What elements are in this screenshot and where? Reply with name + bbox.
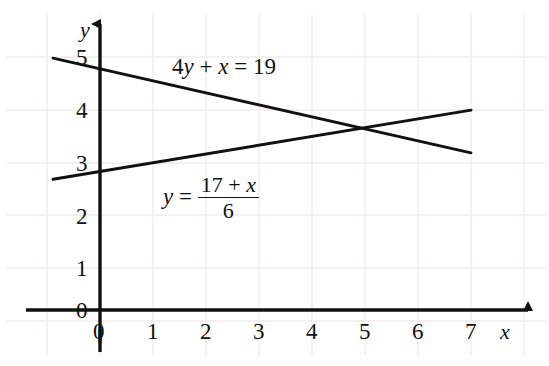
y-tick-label-4: 4 bbox=[76, 99, 88, 122]
equation-line2-lhs: y bbox=[163, 184, 173, 209]
equation-line1-var-y: y bbox=[184, 54, 194, 79]
fraction: 17 + x 6 bbox=[198, 173, 259, 222]
fraction-numerator: 17 + x bbox=[198, 173, 259, 198]
equation-label-line1: 4y + x = 19 bbox=[172, 55, 276, 78]
equation-label-line2: y = 17 + x 6 bbox=[163, 174, 259, 223]
graph-figure: y x 5 4 3 2 1 0 0 1 2 3 4 5 6 7 4y + x =… bbox=[0, 0, 549, 366]
x-tick-label-3: 3 bbox=[253, 320, 265, 343]
x-tick-label-2: 2 bbox=[200, 320, 212, 343]
x-tick-label-5: 5 bbox=[359, 320, 371, 343]
y-tick-label-1: 1 bbox=[76, 257, 88, 280]
y-tick-label-5: 5 bbox=[76, 46, 88, 69]
fraction-denominator: 6 bbox=[198, 198, 259, 222]
equation-line2-equals: = bbox=[179, 184, 192, 209]
equation-line1-plus: + bbox=[194, 54, 218, 79]
equation-line1-rhs: = 19 bbox=[228, 54, 275, 79]
fraction-numerator-var-x: x bbox=[246, 172, 256, 197]
y-tick-label-3: 3 bbox=[76, 152, 88, 175]
x-tick-label-7: 7 bbox=[465, 320, 477, 343]
equation-line1-text: 4 bbox=[172, 54, 184, 79]
x-tick-label-0: 0 bbox=[93, 320, 105, 343]
y-tick-label-2: 2 bbox=[76, 205, 88, 228]
x-tick-label-6: 6 bbox=[412, 320, 424, 343]
x-tick-label-1: 1 bbox=[147, 320, 159, 343]
y-axis-label: y bbox=[80, 19, 90, 41]
y-tick-label-0: 0 bbox=[76, 299, 88, 322]
equation-line1-var-x: x bbox=[218, 54, 228, 79]
x-axis-label: x bbox=[500, 321, 510, 343]
fraction-numerator-const: 17 + bbox=[201, 172, 246, 197]
x-tick-label-4: 4 bbox=[306, 320, 318, 343]
line-y-equals-17-plus-x-over-6 bbox=[53, 110, 471, 179]
